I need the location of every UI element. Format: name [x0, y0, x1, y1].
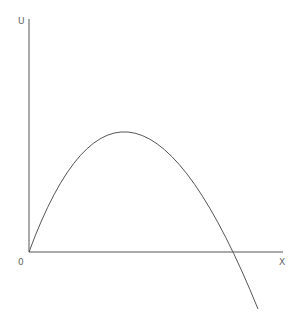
y-axis-label: U — [18, 16, 25, 26]
curve — [29, 132, 258, 309]
origin-label: 0 — [18, 257, 24, 267]
diagram-canvas — [0, 0, 300, 320]
x-axis-label: X — [279, 257, 285, 267]
